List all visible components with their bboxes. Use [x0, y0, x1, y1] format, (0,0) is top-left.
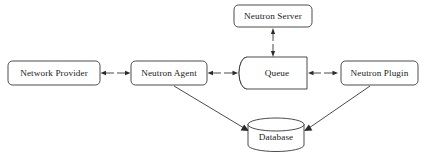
arrowhead-down — [271, 51, 275, 57]
database-cylinder-cap — [248, 118, 304, 131]
edge-network-provider-neutron-agent — [101, 71, 131, 75]
arrowhead-left — [208, 71, 214, 75]
arrowhead — [304, 125, 312, 132]
node-neutron-server[interactable]: Neutron Server — [234, 5, 312, 27]
edge-shaft — [174, 86, 244, 128]
neutron-server-label: Neutron Server — [244, 11, 302, 21]
edge-neutron-plugin-database — [304, 86, 370, 131]
edge-queue-neutron-plugin — [308, 71, 338, 75]
network-provider-label: Network Provider — [20, 68, 88, 78]
database-label: Database — [259, 132, 293, 142]
neutron-plugin-label: Neutron Plugin — [351, 68, 409, 78]
edge-neutron-agent-database — [174, 86, 249, 131]
arrowhead-right — [333, 71, 339, 75]
diagram-canvas: Network Provider Neutron Agent Neutron S… — [0, 0, 426, 158]
arrowhead-left — [308, 71, 314, 75]
arrowhead-up — [271, 28, 275, 34]
arrowhead-right — [233, 71, 239, 75]
node-neutron-plugin[interactable]: Neutron Plugin — [341, 61, 418, 85]
queue-label: Queue — [265, 68, 289, 78]
node-database[interactable]: Database — [248, 118, 304, 152]
neutron-agent-label: Neutron Agent — [141, 68, 197, 78]
arrowhead-left — [101, 71, 107, 75]
node-queue[interactable]: Queue — [239, 57, 307, 89]
node-network-provider[interactable]: Network Provider — [8, 61, 100, 85]
node-neutron-agent[interactable]: Neutron Agent — [131, 61, 207, 85]
queue-cylinder-cap — [239, 57, 247, 89]
edge-shaft — [309, 86, 370, 128]
arrowhead-right — [125, 71, 131, 75]
neutron-architecture-diagram: Network Provider Neutron Agent Neutron S… — [0, 0, 426, 158]
edge-neutron-agent-queue — [208, 71, 239, 75]
edge-queue-neutron-server — [271, 28, 275, 57]
